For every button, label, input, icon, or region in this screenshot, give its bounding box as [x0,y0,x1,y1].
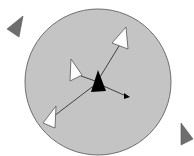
diagram-canvas [0,0,194,156]
outside-bottom-right-triangle [181,123,193,145]
diagram-svg [0,0,194,156]
outside-top-left-triangle [7,16,23,37]
